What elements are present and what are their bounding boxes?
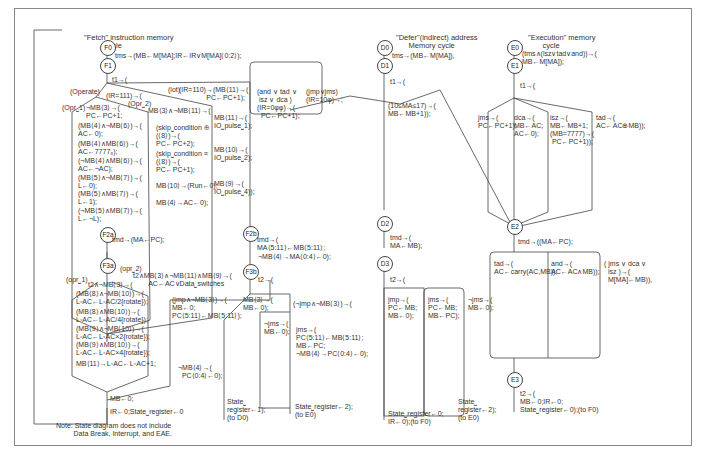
mb3-mb11-label: MB⟨3⟩∧¬MB⟨11⟩→( <box>148 107 211 115</box>
defer-state2: State⎵ register←2); (to E0) <box>458 398 497 422</box>
exec-and2: and→( AC←AC∧MB)); <box>551 260 600 276</box>
opr1-item: (MB⟨5⟩∧MB⟨7⟩)→( L←1); <box>78 190 138 206</box>
exec-dca: dca→( MB←AC; AC←0); <box>514 114 543 138</box>
exec-tad2: tad→( AC←carry(AC,MB)); <box>494 260 557 276</box>
f2b-neg-label: ¬MB⟨4⟩→MA⟨0:4⟩←0); <box>258 253 331 261</box>
ir110-label: (IR=110)→(MB⟨11⟩→( PC←PC+1); <box>179 86 248 102</box>
exec-isz: isz→( MB←MB+1; (MB=7777)→( PC←PC+1)); <box>550 114 594 146</box>
ir0-label: IR←0;State⎵register←0 <box>110 408 183 416</box>
opr1-label: (Opr⎵1) <box>62 104 85 112</box>
jms-label: jms→( PC⟨5:11⟩←MB⟨5:11⟩; MB←PC; ¬MB⟨4⟩→P… <box>296 326 368 358</box>
t2-f3b-label: t2→( <box>258 276 273 284</box>
state-node-f3a: F3a <box>100 258 116 274</box>
fetch-tmd-f2a: tmd→(MA←PC); <box>112 236 165 244</box>
opr2-item: (skip⎵condition ≡ (⟨8⟩)→( PC←PC+1); <box>156 150 208 174</box>
rotate-item: (MB⟨8⟩∧¬MB⟨10⟩)→( L◦AC←L◦AC/2{rotate}); <box>76 290 148 306</box>
opr1-item: (MB⟨5⟩∧¬MB⟨7⟩)→( L←0); <box>78 174 142 190</box>
opr1b-label: (opr⎵1) <box>66 276 88 284</box>
t2-opr2-label: t2∧MB⟨3⟩∧¬MB⟨11⟩∧MB⟨9⟩→( AC←AC∨Data⎵swit… <box>133 272 232 288</box>
rotate-item: (MB⟨8⟩∧MB⟨10⟩)→( L◦AC←L◦AC/4{rotate}); <box>76 308 148 324</box>
and-tad-label: (and ∨ tad ∨ isz ∨ dca ) (IR=0φφ)→( PC←P… <box>257 88 300 120</box>
defer-t1: t1→( <box>390 78 405 86</box>
exec-jms-dca-isz: ( jms ∨ dca ∨ isz )→( M[MA]←MB)), <box>604 260 652 284</box>
exec-t1: t1→( <box>520 82 535 90</box>
mb3-label: ¬MB⟨3⟩→( PC←PC+1; <box>86 104 122 120</box>
ir111-label: (IR=111)→( <box>106 92 142 100</box>
defer-state0: State⎵register←0; IR←0);(to F0) <box>388 410 444 426</box>
opr2-item: MB⟨10⟩→(Run←0); <box>156 182 218 190</box>
exec-jms: jms→( PC←PC+1); <box>478 114 517 130</box>
fetch-cycle-title: "Fetch" instruction memory cycle <box>84 34 174 50</box>
jmp-mb3-label: (jmp∧¬MB⟨3⟩)→( MB←0; PC⟨5:11⟩←MB⟨5:11⟩); <box>172 296 242 320</box>
fetch-tms: tms→(MB←M[MA];IR←IR∨M[MA]⟨0:2⟩); <box>115 52 242 60</box>
execution-cycle-title: "Execution" memory cycle <box>528 34 595 50</box>
rotate-item: MB⟨11⟩→L◦AC←L◦AC+1; <box>76 360 156 368</box>
iot-item: MB⟨10⟩→( IO⎵pulse⎵2); <box>214 146 252 162</box>
defer-t2: t2→( <box>390 276 405 284</box>
state-node-d3: D3 <box>377 256 393 272</box>
opr2-item: MB⟨4⟩→AC←0); <box>156 199 208 207</box>
defer-cycle-title: "Defer"(indirect) address Memory cycle <box>396 34 478 50</box>
defer-tmd: tmd→( MA←MB); <box>390 234 422 250</box>
exec-tmd: tmd→((MA←PC); <box>518 238 573 246</box>
opr1-item: (¬MB⟨5⟩∧MB⟨7⟩)→( L←¬L); <box>78 207 142 223</box>
t2-mb3-label: t2∧¬MB⟨3⟩→( <box>88 281 133 289</box>
iot-item: MB⟨11⟩→( IO⎵pulse⎵1); <box>214 114 252 130</box>
state-node-d2: D2 <box>377 216 393 232</box>
exec-tms: (tms∧(isz∨tad∨and))→( MB←M[MA]); <box>522 50 597 66</box>
state-register-2: State⎵register←2); (to E0) <box>295 403 353 419</box>
state-node-e0: E0 <box>507 40 523 56</box>
opr1-item: (MB⟨4⟩∧¬MB⟨6⟩)→( AC←0); <box>78 122 142 138</box>
exec-tad: tad→( AC←AC⊕MB)); <box>596 114 646 130</box>
exec-t2: t2→( MB←0;IR←0; State⎵register←0);(to F0… <box>520 390 598 414</box>
njms-label: ¬jms→( MB←0); <box>264 320 290 336</box>
mb4-pc-label: ¬MB⟨4⟩→( PC⟨0:4⟩←0); <box>178 364 223 380</box>
defer-jmp: jmp→( PC←MB; MB←0); <box>388 296 417 320</box>
opr2-item: (skip⎵condition ⊕ (⟨8⟩)→( PC←PC+2); <box>156 124 209 148</box>
defer-tms: tms→(MB←M[MA]), <box>392 52 455 60</box>
njmp-label: (¬jmp∧¬MB⟨3⟩)→( <box>293 300 352 308</box>
state-node-d1: D1 <box>377 58 393 74</box>
fetch-t1: t1→( <box>112 76 127 84</box>
mb0-label: MB←0; <box>110 395 133 403</box>
state-node-e2: E2 <box>507 219 523 235</box>
opr1-item: (¬MB⟨4⟩∧MB⟨6⟩)→( AC←¬AC); <box>78 157 142 173</box>
jmp-jms-label: (jmp∨jms) (IR=10φ)→; <box>306 88 343 104</box>
rotate-item: (MB⟨9⟩∧¬MB⟨10⟩)→( L◦AC←L◦AC×2{rotate}); <box>76 325 150 341</box>
defer-jms: jms→( PC←MB; MB←PC); <box>428 296 460 320</box>
rotate-item: (MB⟨9⟩∧MB⟨10⟩)→( L◦AC←L◦AC×4{rotate}); <box>76 341 150 357</box>
iot-item: MB⟨9⟩→( IO⎵pulse⎵4)); <box>214 180 255 196</box>
state-node-f1: F1 <box>100 58 116 74</box>
operate-label: (Operate) <box>70 88 100 96</box>
defer-autoinc: (10≤MA≤17)→( MB←MB+1)); <box>388 102 436 118</box>
state-register-1: State⎵ register←1); (to D0) <box>227 398 266 422</box>
state-node-f0: F0 <box>100 40 116 56</box>
opr1-item: (MB⟨4⟩∧MB⟨6⟩)→( AC←7777₈); <box>78 140 138 156</box>
mb3-mb0-label: MB⟨3⟩→( MB←0); <box>243 296 273 312</box>
state-node-f3b: F3b <box>243 264 259 280</box>
f2b-label: tmd→( MA⟨5:11⟩←MB⟨5:11⟩; <box>257 236 325 252</box>
diagram-note: Note: State diagram does not include Dat… <box>56 422 172 438</box>
state-node-e1: E1 <box>507 58 523 74</box>
state-node-e3: E3 <box>507 372 523 388</box>
state-node-d0: D0 <box>377 40 393 56</box>
defer-njms: ¬jms→( MB←0); <box>468 296 494 312</box>
